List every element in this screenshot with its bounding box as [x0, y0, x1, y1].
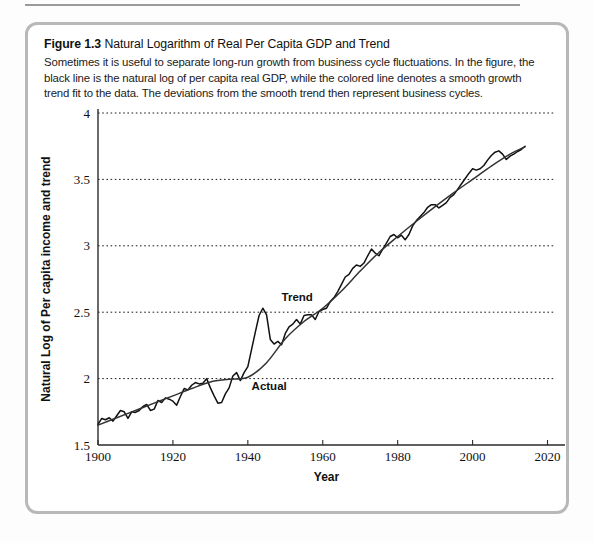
- figure-number: Figure 1.3: [44, 37, 101, 51]
- x-tick-label: 2020: [535, 449, 561, 464]
- figure-title-text: Natural Logarithm of Real Per Capita GDP…: [104, 37, 389, 51]
- y-tick-label: 3.5: [74, 172, 90, 187]
- x-tick-label: 1940: [235, 449, 261, 464]
- y-tick-label: 2: [84, 371, 91, 386]
- series-line-trend: [98, 147, 525, 425]
- figure-caption: Sometimes it is useful to separate long-…: [44, 55, 548, 102]
- axes-layer: [98, 109, 565, 445]
- x-tick-label: 2000: [460, 449, 486, 464]
- figure-inner: Figure 1.3 Natural Logarithm of Real Per…: [28, 25, 566, 511]
- line-chart: 1.522.533.541900192019401960198020002020…: [28, 103, 566, 513]
- figure-title: Figure 1.3 Natural Logarithm of Real Per…: [44, 37, 552, 52]
- x-tick-label: 1920: [160, 449, 186, 464]
- x-axis-title: Year: [314, 470, 340, 484]
- grid-layer: [98, 113, 555, 379]
- y-axis-title: Natural Log of Per capita income and tre…: [39, 156, 53, 401]
- y-tick-label: 2.5: [74, 305, 90, 320]
- series-layer: [98, 146, 525, 425]
- page-top-rule: [25, 4, 520, 6]
- figure-card: Figure 1.3 Natural Logarithm of Real Per…: [25, 22, 569, 514]
- x-tick-label: 1900: [85, 449, 111, 464]
- y-tick-label: 4: [84, 106, 91, 121]
- annotation-actual: Actual: [252, 380, 287, 392]
- annotation-trend: Trend: [282, 291, 313, 303]
- chart-plot-area: 1.522.533.541900192019401960198020002020…: [28, 103, 566, 513]
- x-tick-label: 1960: [310, 449, 336, 464]
- y-tick-label: 3: [84, 238, 91, 253]
- ticks-layer: [98, 440, 548, 445]
- page-root: Figure 1.3 Natural Logarithm of Real Per…: [0, 0, 593, 543]
- x-tick-label: 1980: [385, 449, 411, 464]
